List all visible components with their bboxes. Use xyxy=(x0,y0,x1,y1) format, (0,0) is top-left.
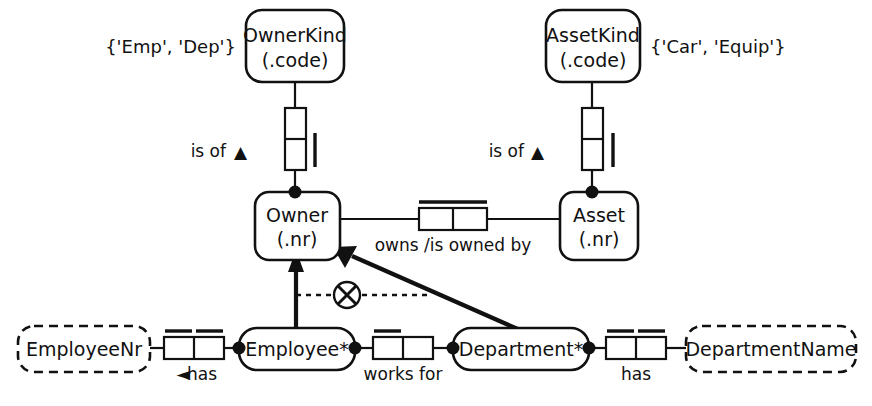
object-department[interactable]: Department* xyxy=(453,328,589,370)
diagram-svg: OwnerKind (.code) {'Emp', 'Dep'} AssetKi… xyxy=(0,0,872,406)
predicate-label-owns: owns /is owned by xyxy=(375,235,532,255)
owner-ref: (.nr) xyxy=(277,228,318,250)
object-departmentname[interactable]: DepartmentName xyxy=(685,326,856,372)
object-owner[interactable]: Owner (.nr) xyxy=(255,192,340,260)
predicate-owner-is-of-kind[interactable] xyxy=(285,108,315,170)
predicate-label-works-for: works for xyxy=(364,364,443,384)
asset-name: Asset xyxy=(573,204,625,226)
exclusion-constraint-icon xyxy=(334,282,360,308)
object-assetkind[interactable]: AssetKind (.code) xyxy=(546,10,640,82)
mandatory-dot-asset-isof xyxy=(586,186,599,199)
owner-name: Owner xyxy=(266,204,328,226)
ownerkind-value-constraint: {'Emp', 'Dep'} xyxy=(105,36,236,57)
predicate-label-employee-has: has xyxy=(187,364,217,384)
departmentname-label: DepartmentName xyxy=(685,338,856,360)
predicate-asset-is-of-kind[interactable] xyxy=(582,108,613,170)
mandatory-dot-employee-worksfor xyxy=(349,342,362,355)
predicate-label-asset-is-of: is of xyxy=(489,141,525,161)
object-asset[interactable]: Asset (.nr) xyxy=(560,192,638,260)
predicate-owns[interactable] xyxy=(419,202,487,230)
ownerkind-name: OwnerKind xyxy=(243,24,347,46)
object-ownerkind[interactable]: OwnerKind (.code) xyxy=(243,10,347,82)
mandatory-dot-owner-isof xyxy=(289,186,302,199)
mandatory-dot-employee-has xyxy=(233,342,246,355)
orm-diagram-canvas: OwnerKind (.code) {'Emp', 'Dep'} AssetKi… xyxy=(0,0,872,406)
predicate-label-owner-is-of: is of xyxy=(191,141,227,161)
mandatory-dot-department-has xyxy=(583,342,596,355)
predicate-works-for[interactable] xyxy=(373,331,433,359)
predicate-department-has-name[interactable] xyxy=(606,331,666,359)
predicate-label-department-has: has xyxy=(621,364,651,384)
assetkind-value-constraint: {'Car', 'Equip'} xyxy=(650,36,786,57)
assetkind-name: AssetKind xyxy=(546,24,640,46)
employee-has-arrow-marker: ◄ xyxy=(176,364,190,384)
predicate-employee-has-nr[interactable] xyxy=(164,331,224,359)
assetkind-ref: (.code) xyxy=(560,49,627,71)
employee-name: Employee* xyxy=(245,338,349,360)
asset-ref: (.nr) xyxy=(579,228,620,250)
object-employeenr[interactable]: EmployeeNr xyxy=(18,326,150,372)
object-employee[interactable]: Employee* xyxy=(239,328,355,370)
owner-isof-arrow-marker: ▲ xyxy=(234,142,248,162)
asset-isof-arrow-marker: ▲ xyxy=(531,142,545,162)
department-name: Department* xyxy=(459,338,583,360)
subtype-link-department-owner xyxy=(352,256,520,330)
employeenr-label: EmployeeNr xyxy=(26,338,142,360)
mandatory-dot-department-worksfor xyxy=(447,342,460,355)
ownerkind-ref: (.code) xyxy=(262,49,329,71)
